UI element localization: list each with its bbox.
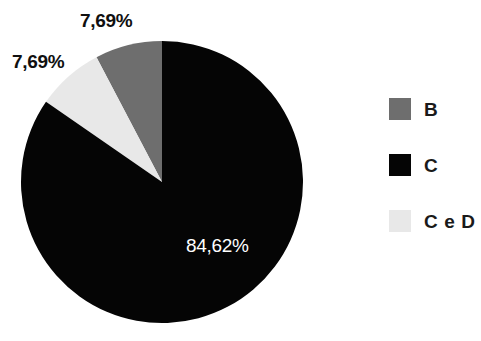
legend-item-c-e-d[interactable]: C e D xyxy=(389,210,481,232)
legend-item-c[interactable]: C xyxy=(389,154,481,176)
slice-label-c: 84,62% xyxy=(186,235,249,257)
slice-label-c-e-d: 7,69% xyxy=(12,51,64,73)
legend-label-b: B xyxy=(424,100,438,119)
pie-chart: 7,69% 7,69% 84,62% B C C e D xyxy=(0,0,481,341)
pie-slice-group xyxy=(21,41,303,323)
legend-item-b[interactable]: B xyxy=(389,98,481,120)
legend-swatch-c-e-d xyxy=(389,210,411,232)
slice-label-b: 7,69% xyxy=(80,10,132,32)
legend-label-c: C xyxy=(424,156,438,175)
legend-swatch-c xyxy=(389,154,411,176)
legend-label-c-e-d: C e D xyxy=(424,212,476,231)
legend-swatch-b xyxy=(389,98,411,120)
chart-legend: B C C e D xyxy=(389,98,481,232)
pie-plot-area: 7,69% 7,69% 84,62% xyxy=(0,0,340,341)
